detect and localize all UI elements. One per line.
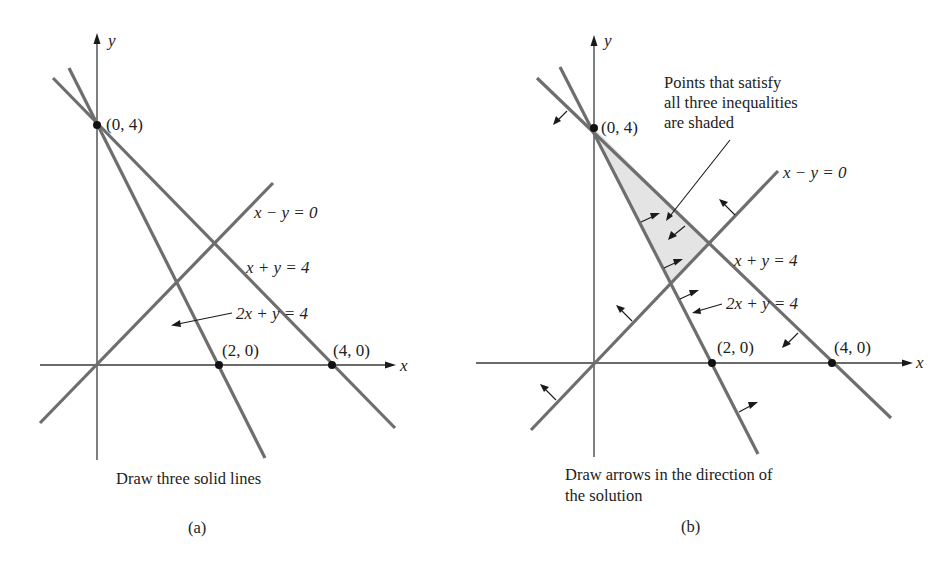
caption-b-line-2: the solution [565, 486, 642, 505]
x-axis-arrowhead-icon [902, 360, 913, 367]
point-2-0 [215, 361, 223, 369]
annotation-line-3: are shaded [664, 113, 735, 132]
y-axis-label: y [106, 31, 116, 50]
figure: y x (0, 4) (2, 0) (4, 0) x − y = 0 x + y… [0, 0, 930, 565]
direction-arrows-x-minus-y [540, 199, 735, 400]
caption-b-line-1: Draw arrows in the direction of [565, 465, 773, 484]
y-axis-arrowhead-icon [94, 33, 101, 44]
annotation-line-2: all three inequalities [664, 93, 798, 112]
x-axis-label: x [399, 356, 408, 375]
leader-arrowhead-icon [171, 320, 181, 327]
point-0-4 [590, 124, 598, 132]
caption-a: Draw three solid lines [116, 469, 261, 488]
label-point-2-0: (2, 0) [222, 341, 259, 360]
label-eq-2x-plus-y: 2x + y = 4 [236, 304, 309, 323]
label-point-2-0: (2, 0) [717, 338, 754, 357]
point-4-0 [328, 361, 336, 369]
panel-label-b: (b) [681, 517, 700, 536]
leader-arrowhead-icon [692, 308, 701, 315]
y-axis-label: y [602, 31, 612, 50]
label-point-0-4: (0, 4) [106, 115, 143, 134]
label-eq-x-plus-y: x + y = 4 [733, 251, 798, 270]
label-point-4-0: (4, 0) [333, 341, 370, 360]
label-point-0-4: (0, 4) [601, 118, 638, 137]
panel-a: y x (0, 4) (2, 0) (4, 0) x − y = 0 x + y… [40, 31, 408, 537]
point-4-0 [828, 359, 836, 367]
label-eq-x-plus-y: x + y = 4 [245, 258, 310, 277]
label-eq-x-minus-y: x − y = 0 [253, 203, 318, 222]
leader-arrow [698, 304, 722, 311]
line-x-minus-y-eq-0 [40, 183, 273, 423]
annotation-pointer [670, 140, 730, 216]
label-eq-2x-plus-y: 2x + y = 4 [726, 294, 799, 313]
annotation-line-1: Points that satisfy [664, 73, 782, 92]
y-axis-arrowhead-icon [591, 35, 598, 46]
leader-arrow [178, 313, 232, 324]
x-axis-arrowhead-icon [385, 362, 396, 369]
label-point-4-0: (4, 0) [834, 338, 871, 357]
panel-b: y x (0, 4) (2, 0) (4, 0) x − y = 0 x + y… [476, 31, 924, 536]
point-2-0 [708, 359, 716, 367]
point-0-4 [93, 121, 101, 129]
panel-label-a: (a) [188, 518, 206, 537]
label-eq-x-minus-y: x − y = 0 [782, 163, 847, 182]
x-axis-label: x [915, 353, 924, 372]
